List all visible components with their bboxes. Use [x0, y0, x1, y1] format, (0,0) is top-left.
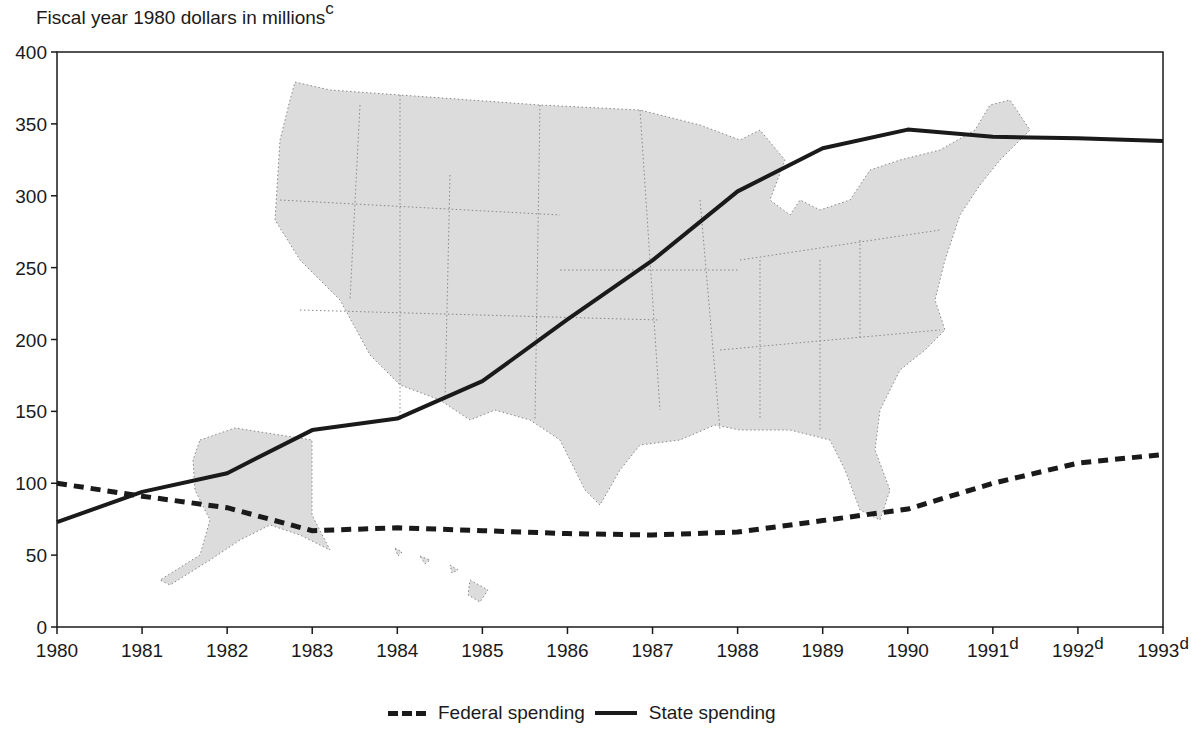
x-tick-label: 1981: [121, 640, 163, 661]
y-tick-label: 300: [15, 186, 47, 207]
y-tick-label: 250: [15, 258, 47, 279]
state-legend-label: State spending: [649, 702, 776, 724]
x-tick-label: 1983: [291, 640, 333, 661]
x-tick-label: 1990: [887, 640, 929, 661]
x-axis-ticks: 1980198119821983198419851986198719881989…: [36, 627, 1189, 661]
x-tick-label: 1993d: [1137, 634, 1189, 661]
x-tick-label: 1992d: [1052, 634, 1104, 661]
y-tick-label: 400: [15, 42, 47, 63]
y-tick-label: 100: [15, 473, 47, 494]
x-tick-label: 1985: [461, 640, 503, 661]
y-tick-label: 200: [15, 330, 47, 351]
federal-legend-swatch: [388, 711, 426, 716]
x-tick-label: 1986: [546, 640, 588, 661]
y-tick-label: 350: [15, 114, 47, 135]
us-map-background: [160, 82, 1030, 602]
x-tick-label: 1982: [206, 640, 248, 661]
x-tick-label: 1991d: [967, 634, 1019, 661]
line-chart: 050100150200250300350400 198019811982198…: [0, 0, 1202, 700]
y-tick-label: 150: [15, 401, 47, 422]
x-tick-label: 1988: [716, 640, 758, 661]
federal-legend-label: Federal spending: [438, 702, 585, 724]
y-tick-label: 0: [36, 617, 47, 638]
state-legend-swatch: [595, 711, 637, 715]
y-tick-label: 50: [26, 545, 47, 566]
y-axis-ticks: 050100150200250300350400: [15, 42, 57, 638]
x-tick-label: 1989: [802, 640, 844, 661]
legend: Federal spending State spending: [388, 702, 776, 724]
x-tick-label: 1980: [36, 640, 78, 661]
x-tick-label: 1987: [631, 640, 673, 661]
x-tick-label: 1984: [376, 640, 419, 661]
